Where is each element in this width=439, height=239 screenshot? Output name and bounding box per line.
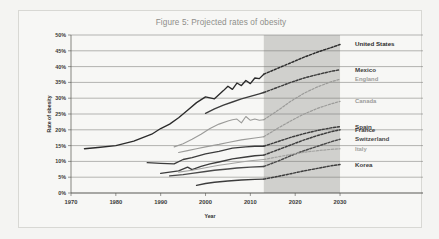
y-axis-title: Rate of obesity — [46, 95, 52, 132]
series-end-labels: United StatesMexicoEnglandCanadaSpainFra… — [355, 40, 395, 167]
y-tick-label: 20% — [55, 127, 66, 133]
x-tick-label: 2000 — [199, 199, 212, 205]
x-axis-title: Year — [205, 213, 216, 219]
x-tick-label: 2030 — [334, 199, 347, 205]
y-tick-label: 15% — [55, 143, 66, 149]
x-tick-label: 2020 — [289, 199, 302, 205]
y-tick-label: 5% — [58, 174, 66, 180]
series-label-united-states: United States — [355, 40, 395, 47]
obesity-line-chart: 0%5%10%15%20%25%30%35%40%45%50% 19701980… — [19, 11, 423, 229]
series-label-switzerland: Switzerland — [355, 135, 390, 142]
x-axis-tick-labels: 1970198019902000201020202030 — [65, 193, 347, 205]
gridlines — [71, 35, 423, 193]
y-tick-label: 45% — [55, 48, 66, 54]
chart-figure-card: Figure 5: Projected rates of obesity 0%5… — [18, 10, 422, 228]
series-observed-mexico — [206, 93, 264, 114]
series-observed-korea — [197, 179, 264, 185]
series-observed-england — [174, 117, 264, 147]
x-tick-label: 2010 — [244, 199, 257, 205]
series-label-korea: Korea — [355, 161, 373, 168]
series-label-france: France — [355, 126, 376, 133]
screenshot-root: Figure 5: Projected rates of obesity 0%5… — [0, 0, 439, 239]
series-observed-united-states — [84, 74, 263, 149]
series-label-italy: Italy — [355, 146, 368, 152]
x-tick-label: 1980 — [109, 199, 122, 205]
y-tick-label: 30% — [55, 95, 66, 101]
y-tick-label: 0% — [58, 190, 66, 196]
y-axis-tick-labels: 0%5%10%15%20%25%30%35%40%45%50% — [55, 32, 71, 196]
series-label-mexico: Mexico — [355, 66, 376, 73]
series-label-canada: Canada — [355, 98, 377, 104]
x-tick-label: 1970 — [65, 199, 78, 205]
y-tick-label: 25% — [55, 111, 66, 117]
y-tick-label: 35% — [55, 79, 66, 85]
y-tick-label: 50% — [55, 32, 66, 38]
x-tick-label: 1990 — [154, 199, 167, 205]
y-tick-label: 40% — [55, 64, 66, 70]
series-label-england: England — [355, 76, 379, 82]
y-tick-label: 10% — [55, 158, 66, 164]
